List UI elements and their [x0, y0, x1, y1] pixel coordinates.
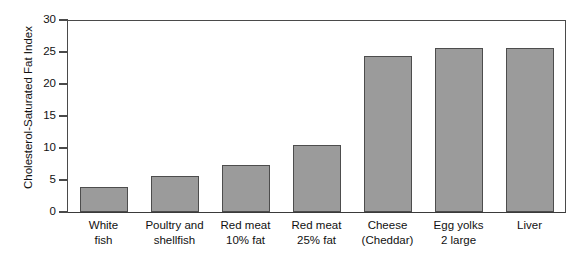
x-category-label: Cheese(Cheddar): [352, 218, 423, 247]
x-category-label-line1: Cheese: [368, 219, 408, 231]
y-tick-mark: [59, 19, 68, 21]
y-tick-label-text: 25: [16, 46, 56, 58]
x-category-label-line1: Liver: [517, 219, 542, 231]
bar: [151, 176, 199, 212]
x-category-label-line2: 10% fat: [210, 233, 281, 248]
x-category-label-line2: (Cheddar): [352, 233, 423, 248]
bar-chart: Cholesterol-Saturated Fat Index 05101520…: [0, 0, 586, 263]
y-tick-label-text: 5: [16, 174, 56, 186]
y-tick-mark: [59, 179, 68, 181]
y-tick-mark: [59, 147, 68, 149]
bar: [293, 145, 341, 212]
y-tick-label-text: 10: [16, 142, 56, 154]
x-category-label: Liver: [494, 218, 565, 233]
y-tick-label: 20: [8, 78, 56, 90]
x-category-label-line1: Red meat: [221, 219, 271, 231]
y-tick-label-text: 30: [16, 14, 56, 26]
y-tick-label: 15: [8, 110, 56, 122]
x-category-label: Egg yolks2 large: [423, 218, 494, 247]
bar: [364, 56, 412, 212]
x-category-label-line2: shellfish: [139, 233, 210, 248]
y-tick-mark: [59, 83, 68, 85]
bar: [506, 48, 554, 212]
x-category-label: Poultry andshellfish: [139, 218, 210, 247]
x-category-label: Red meat10% fat: [210, 218, 281, 247]
y-tick-label-text: 20: [16, 78, 56, 90]
x-category-label-line1: Red meat: [292, 219, 342, 231]
y-tick-label: 30: [8, 14, 56, 26]
y-tick-mark: [59, 115, 68, 117]
bar: [80, 187, 128, 212]
x-category-label-line1: Poultry and: [145, 219, 203, 231]
bar: [435, 48, 483, 212]
x-category-label-line1: Egg yolks: [434, 219, 484, 231]
y-tick-label: 0: [8, 206, 56, 218]
y-tick-label: 5: [8, 174, 56, 186]
x-category-label: Red meat25% fat: [281, 218, 352, 247]
y-tick-label-text: 15: [16, 110, 56, 122]
x-category-label-line2: 2 large: [423, 233, 494, 248]
x-axis-category-labels: WhitefishPoultry andshellfishRed meat10%…: [68, 218, 565, 262]
y-tick-label: 10: [8, 142, 56, 154]
y-tick-mark: [59, 51, 68, 53]
x-category-label-line2: 25% fat: [281, 233, 352, 248]
x-category-label-line1: White: [89, 219, 118, 231]
bars-layer: [68, 20, 565, 212]
y-tick-label-text: 0: [16, 206, 56, 218]
y-tick-label: 25: [8, 46, 56, 58]
x-category-label-line2: fish: [68, 233, 139, 248]
bar: [222, 165, 270, 212]
y-tick-mark: [59, 211, 68, 213]
x-category-label: Whitefish: [68, 218, 139, 247]
